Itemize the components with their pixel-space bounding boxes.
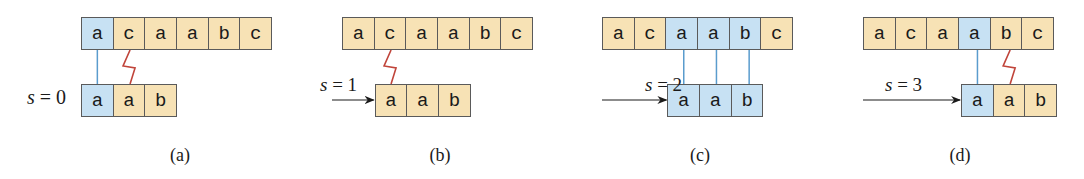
pattern-cell: b (144, 84, 177, 117)
panel-caption: (b) (430, 145, 451, 166)
text-cell: a (144, 17, 177, 50)
text-cell: b (208, 17, 241, 50)
pattern-cell: b (731, 84, 764, 117)
text-cell: a (697, 17, 730, 50)
shift-value: = 1 (327, 74, 357, 95)
pattern-row: aab (375, 84, 471, 117)
text-cell: c (113, 17, 146, 50)
pattern-cell: b (1024, 84, 1057, 117)
text-cell: a (81, 17, 114, 50)
pattern-cell: a (113, 84, 146, 117)
shift-label: s = 2 (645, 74, 682, 96)
text-cell: c (500, 17, 533, 50)
shift-value: = 0 (35, 86, 66, 108)
shift-value: = 3 (892, 74, 922, 95)
text-cell: b (469, 17, 502, 50)
text-cell: b (729, 17, 762, 50)
mismatch-zigzag-icon (384, 50, 396, 84)
text-cell: c (374, 17, 407, 50)
text-cell: a (665, 17, 698, 50)
text-cell: b (990, 17, 1023, 50)
pattern-cell: b (438, 84, 471, 117)
text-cell: a (958, 17, 991, 50)
text-row: acaabc (863, 17, 1054, 50)
text-cell: c (634, 17, 667, 50)
shift-label: s = 1 (320, 74, 357, 96)
text-cell: c (1021, 17, 1054, 50)
pattern-cell: a (993, 84, 1026, 117)
text-cell: a (342, 17, 375, 50)
mismatch-zigzag-icon (123, 50, 135, 84)
pattern-cell: a (81, 84, 114, 117)
text-cell: c (895, 17, 928, 50)
pattern-row: aab (961, 84, 1057, 117)
pattern-cell: a (375, 84, 408, 117)
text-cell: c (760, 17, 793, 50)
pattern-cell: a (699, 84, 732, 117)
text-cell: a (602, 17, 635, 50)
panel-caption: (c) (690, 145, 710, 166)
text-cell: a (405, 17, 438, 50)
shift-label: s = 0 (27, 86, 66, 109)
panel-caption: (a) (170, 145, 190, 166)
text-row: acaabc (602, 17, 793, 50)
text-cell: c (239, 17, 272, 50)
text-cell: a (176, 17, 209, 50)
pattern-cell: a (406, 84, 439, 117)
pattern-row: aab (81, 84, 177, 117)
text-cell: a (437, 17, 470, 50)
panel-caption: (d) (950, 145, 971, 166)
pattern-cell: a (961, 84, 994, 117)
text-cell: a (926, 17, 959, 50)
shift-label: s = 3 (885, 74, 922, 96)
text-cell: a (863, 17, 896, 50)
mismatch-zigzag-icon (1003, 50, 1015, 84)
text-row: acaabc (81, 17, 272, 50)
shift-variable: s (27, 86, 35, 108)
text-row: acaabc (342, 17, 533, 50)
shift-value: = 2 (652, 74, 682, 95)
